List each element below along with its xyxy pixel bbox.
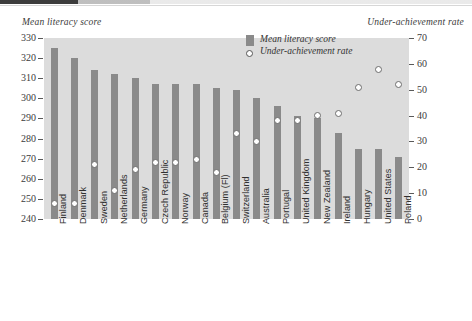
marker-denmark bbox=[71, 200, 78, 207]
bar-canada bbox=[193, 84, 200, 219]
category-label-new-zealand: New Zealand bbox=[322, 170, 332, 224]
right-axis-tick-label: 30 bbox=[417, 135, 443, 146]
left-axis-tick bbox=[38, 118, 43, 119]
bar-poland bbox=[395, 157, 402, 219]
category-label-hungary: Hungary bbox=[362, 189, 372, 224]
marker-norway bbox=[172, 159, 179, 166]
bar-united-states bbox=[375, 149, 382, 219]
right-axis-tick-label: 40 bbox=[417, 110, 443, 121]
bar-sweden bbox=[91, 70, 98, 219]
left-axis-tick-label: 240 bbox=[8, 213, 36, 224]
legend-label: Under-achievement rate bbox=[260, 46, 352, 56]
circle-marker-icon bbox=[246, 50, 253, 57]
category-label-portugal: Portugal bbox=[281, 190, 291, 224]
marker-ireland bbox=[335, 110, 342, 117]
left-axis-tick-label: 250 bbox=[8, 193, 36, 204]
category-label-norway: Norway bbox=[180, 193, 190, 224]
left-axis-tick bbox=[38, 98, 43, 99]
category-label-sweden: Sweden bbox=[99, 191, 109, 224]
left-axis-tick-label: 290 bbox=[8, 112, 36, 123]
right-axis-tick bbox=[409, 116, 414, 117]
marker-canada bbox=[193, 156, 200, 163]
category-label-united-states: United States bbox=[383, 169, 393, 224]
right-axis-tick-label: 0 bbox=[417, 213, 443, 224]
marker-belgium-fl bbox=[213, 169, 220, 176]
category-label-finland: Finland bbox=[58, 194, 68, 224]
marker-united-states bbox=[375, 66, 382, 73]
marker-portugal bbox=[274, 117, 281, 124]
right-axis-tick bbox=[409, 38, 414, 39]
left-axis-tick bbox=[38, 159, 43, 160]
category-label-ireland: Ireland bbox=[342, 196, 352, 224]
bar-ireland bbox=[335, 133, 342, 219]
bar-germany bbox=[132, 78, 139, 219]
bar-united-kingdom bbox=[294, 116, 301, 219]
left-axis-tick bbox=[38, 139, 43, 140]
marker-hungary bbox=[355, 84, 362, 91]
right-axis-tick-label: 70 bbox=[417, 32, 443, 43]
category-label-belgium-fl: Belgium (Fl) bbox=[220, 174, 230, 224]
left-axis-tick bbox=[38, 179, 43, 180]
right-axis-tick-label: 50 bbox=[417, 84, 443, 95]
left-axis-tick-label: 260 bbox=[8, 173, 36, 184]
bar-swatch-icon bbox=[246, 35, 254, 46]
category-label-netherlands: Netherlands bbox=[119, 174, 129, 224]
bar-switzerland bbox=[233, 90, 240, 219]
left-axis-tick-label: 270 bbox=[8, 153, 36, 164]
marker-czech-republic bbox=[152, 159, 159, 166]
marker-finland bbox=[51, 200, 58, 207]
chart-legend: Mean literacy score Under-achievement ra… bbox=[243, 36, 393, 60]
bar-netherlands bbox=[111, 74, 118, 219]
left-axis-tick bbox=[38, 199, 43, 200]
bar-new-zealand bbox=[314, 118, 321, 219]
marker-poland bbox=[395, 81, 402, 88]
right-axis-tick-label: 10 bbox=[417, 187, 443, 198]
bar-czech-republic bbox=[152, 84, 159, 219]
legend-item-under-achievement-rate: Under-achievement rate bbox=[243, 48, 393, 59]
left-axis-tick-label: 330 bbox=[8, 32, 36, 43]
left-axis-tick-label: 310 bbox=[8, 72, 36, 83]
bar-hungary bbox=[355, 149, 362, 219]
category-label-germany: Germany bbox=[139, 186, 149, 224]
category-label-poland: Poland bbox=[403, 195, 413, 224]
category-label-denmark: Denmark bbox=[78, 187, 88, 224]
left-axis-tick bbox=[38, 219, 43, 220]
category-label-australia: Australia bbox=[261, 188, 271, 224]
left-axis-tick bbox=[38, 38, 43, 39]
right-axis-tick-label: 20 bbox=[417, 161, 443, 172]
right-axis-tick bbox=[409, 167, 414, 168]
left-axis-tick-label: 320 bbox=[8, 52, 36, 63]
right-axis-tick bbox=[409, 193, 414, 194]
legend-label: Mean literacy score bbox=[260, 34, 336, 44]
right-axis-tick-label: 60 bbox=[417, 58, 443, 69]
category-label-canada: Canada bbox=[200, 192, 210, 224]
left-axis-tick-label: 300 bbox=[8, 92, 36, 103]
left-axis-tick bbox=[38, 78, 43, 79]
right-axis-tick bbox=[409, 141, 414, 142]
bar-denmark bbox=[71, 58, 78, 219]
category-label-united-kingdom: United Kingdom bbox=[301, 159, 311, 224]
literacy-chart: Mean literacy score Under-achievement ra… bbox=[0, 0, 472, 321]
category-label-czech-republic: Czech Republic bbox=[160, 160, 170, 224]
right-axis-title: Under-achievement rate bbox=[367, 17, 464, 27]
bar-finland bbox=[51, 48, 58, 219]
right-axis-tick bbox=[409, 64, 414, 65]
category-label-switzerland: Switzerland bbox=[241, 176, 251, 224]
left-axis-title: Mean literacy score bbox=[22, 17, 101, 27]
right-axis-tick bbox=[409, 90, 414, 91]
bar-norway bbox=[172, 84, 179, 219]
left-axis-tick bbox=[38, 58, 43, 59]
bar-australia bbox=[253, 98, 260, 219]
left-axis-tick-label: 280 bbox=[8, 133, 36, 144]
bar-belgium-fl bbox=[213, 88, 220, 219]
